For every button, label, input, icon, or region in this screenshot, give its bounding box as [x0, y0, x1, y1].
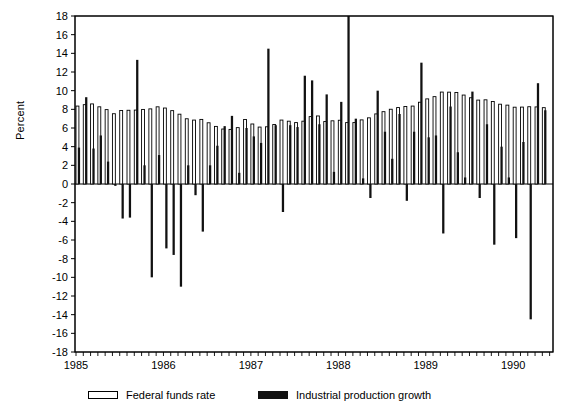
bar-industrial-production-growth	[457, 152, 459, 184]
bar-federal-funds-rate	[200, 119, 203, 184]
bar-industrial-production-growth	[143, 165, 145, 184]
bar-federal-funds-rate	[528, 107, 531, 184]
bar-industrial-production-growth	[122, 184, 124, 219]
bar-industrial-production-growth	[216, 146, 218, 184]
bar-federal-funds-rate	[367, 118, 370, 184]
bar-federal-funds-rate	[506, 105, 509, 184]
chart-legend: Federal funds rate Industrial production…	[0, 386, 586, 408]
bar-federal-funds-rate	[360, 120, 363, 184]
bar-industrial-production-growth	[435, 135, 437, 184]
plot-area	[0, 0, 586, 412]
bar-industrial-production-growth	[304, 76, 306, 184]
bar-industrial-production-growth	[508, 177, 510, 184]
bar-industrial-production-growth	[355, 119, 357, 184]
bar-industrial-production-growth	[471, 92, 473, 184]
bar-federal-funds-rate	[178, 114, 181, 184]
bar-industrial-production-growth	[85, 97, 87, 184]
legend-swatch-solid-bar-icon	[258, 391, 288, 399]
bar-industrial-production-growth	[391, 159, 393, 184]
bar-industrial-production-growth	[100, 135, 102, 184]
bar-industrial-production-growth	[253, 136, 255, 184]
bar-industrial-production-growth	[398, 114, 400, 184]
bar-industrial-production-growth	[129, 184, 131, 218]
legend-entry-industrial-production-growth: Industrial production growth	[258, 389, 431, 401]
bar-industrial-production-growth	[180, 184, 182, 287]
legend-label-industrial-production-growth: Industrial production growth	[296, 389, 431, 401]
bar-industrial-production-growth	[515, 184, 517, 238]
bar-industrial-production-growth	[442, 184, 444, 233]
bar-industrial-production-growth	[537, 83, 539, 184]
bar-industrial-production-growth	[493, 184, 495, 245]
bar-industrial-production-growth	[420, 63, 422, 184]
bar-industrial-production-growth	[238, 173, 240, 184]
bar-federal-funds-rate	[280, 120, 283, 184]
bar-industrial-production-growth	[260, 143, 262, 184]
bar-industrial-production-growth	[406, 184, 408, 201]
bar-federal-funds-rate	[112, 114, 115, 184]
bar-industrial-production-growth	[224, 126, 226, 184]
bar-industrial-production-growth	[347, 16, 349, 184]
bar-industrial-production-growth	[413, 132, 415, 184]
bar-federal-funds-rate	[477, 100, 480, 184]
bar-industrial-production-growth	[500, 147, 502, 184]
bar-federal-funds-rate	[404, 107, 407, 184]
bar-industrial-production-growth	[449, 107, 451, 184]
bar-industrial-production-growth	[282, 184, 284, 212]
bar-federal-funds-rate	[462, 95, 465, 184]
bar-industrial-production-growth	[114, 184, 116, 186]
bar-industrial-production-growth	[326, 94, 328, 184]
bar-federal-funds-rate	[163, 108, 166, 184]
bar-industrial-production-growth	[165, 184, 167, 248]
bar-industrial-production-growth	[311, 80, 313, 184]
bar-industrial-production-growth	[151, 184, 153, 277]
bar-industrial-production-growth	[333, 172, 335, 184]
chart-figure: Percent 181614121086420-2-4-6-8-10-12-14…	[0, 0, 586, 412]
bar-industrial-production-growth	[289, 125, 291, 184]
legend-swatch-open-bar-icon	[88, 391, 118, 399]
bar-industrial-production-growth	[267, 49, 269, 184]
bar-federal-funds-rate	[127, 110, 130, 184]
bar-industrial-production-growth	[158, 155, 160, 184]
bar-industrial-production-growth	[464, 177, 466, 184]
bar-industrial-production-growth	[340, 102, 342, 184]
bar-industrial-production-growth	[530, 184, 532, 319]
bar-industrial-production-growth	[136, 60, 138, 184]
bar-industrial-production-growth	[362, 178, 364, 184]
bar-industrial-production-growth	[377, 91, 379, 184]
bar-federal-funds-rate	[149, 109, 152, 184]
bar-industrial-production-growth	[245, 128, 247, 184]
legend-entry-federal-funds-rate: Federal funds rate	[88, 389, 215, 401]
bar-industrial-production-growth	[522, 142, 524, 184]
bar-industrial-production-growth	[107, 162, 109, 184]
bar-industrial-production-growth	[369, 184, 371, 198]
bar-industrial-production-growth	[92, 149, 94, 184]
bar-industrial-production-growth	[544, 110, 546, 184]
bar-industrial-production-growth	[275, 125, 277, 184]
bar-industrial-production-growth	[231, 116, 233, 184]
bar-industrial-production-growth	[428, 137, 430, 184]
bar-industrial-production-growth	[318, 124, 320, 184]
bar-industrial-production-growth	[187, 165, 189, 184]
bar-federal-funds-rate	[120, 110, 123, 184]
bar-industrial-production-growth	[78, 148, 80, 184]
bar-industrial-production-growth	[384, 132, 386, 184]
legend-label-federal-funds-rate: Federal funds rate	[126, 389, 215, 401]
bar-industrial-production-growth	[479, 184, 481, 198]
bar-industrial-production-growth	[296, 127, 298, 184]
bar-federal-funds-rate	[491, 101, 494, 184]
bar-industrial-production-growth	[486, 124, 488, 184]
bar-federal-funds-rate	[440, 92, 443, 184]
bar-federal-funds-rate	[171, 111, 174, 184]
bar-federal-funds-rate	[193, 120, 196, 184]
bar-federal-funds-rate	[513, 107, 516, 184]
bar-industrial-production-growth	[202, 184, 204, 232]
bar-industrial-production-growth	[173, 184, 175, 255]
bar-industrial-production-growth	[194, 184, 196, 195]
bar-industrial-production-growth	[209, 165, 211, 184]
